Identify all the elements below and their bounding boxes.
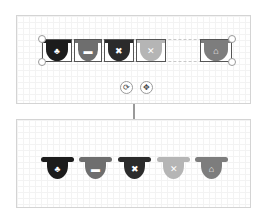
piggy-bank-icon: ♣ [47, 160, 68, 179]
tile-cross[interactable]: ✕ [136, 39, 166, 62]
badge-cross: ✕ [157, 157, 190, 179]
editor-frame: ♣ ▬ ✖ ✕ ⌂ ⟳ ✥ [16, 15, 251, 104]
tile-piggy-bank[interactable]: ♣ [42, 39, 72, 62]
tools-icon: ✖ [108, 42, 130, 61]
piggy-glyph: ♣ [54, 47, 60, 56]
resize-handle-top-left[interactable] [38, 35, 46, 43]
cross-icon: ✕ [140, 42, 162, 61]
house-glyph: ⌂ [209, 165, 214, 174]
tools-icon: ✖ [124, 160, 145, 179]
resize-handle-bottom-right[interactable] [228, 58, 236, 66]
tools-glyph: ✖ [131, 165, 139, 174]
arrow-shaft [133, 104, 135, 119]
rotate-icon: ⟳ [123, 84, 130, 92]
move-icon: ✥ [143, 84, 150, 92]
result-frame: ♣ ▬ ✖ ✕ ⌂ [16, 119, 251, 208]
resize-handle-top-right[interactable] [228, 35, 236, 43]
badge-house: ⌂ [195, 157, 228, 179]
rotate-button[interactable]: ⟳ [120, 81, 133, 94]
piggy-bank-icon: ♣ [46, 42, 68, 61]
cross-glyph: ✕ [170, 165, 178, 174]
selection-box[interactable]: ♣ ▬ ✖ ✕ ⌂ [42, 39, 232, 62]
house-glyph: ⌂ [213, 47, 218, 56]
badge-car: ▬ [79, 157, 112, 179]
tile-tools[interactable]: ✖ [104, 39, 134, 62]
tile-house[interactable]: ⌂ [200, 39, 232, 62]
resize-handle-bottom-left[interactable] [38, 58, 46, 66]
badge-piggy-bank: ♣ [41, 157, 74, 179]
car-icon: ▬ [85, 160, 106, 179]
cross-glyph: ✕ [147, 47, 155, 56]
cross-icon: ✕ [163, 160, 184, 179]
car-glyph: ▬ [84, 47, 93, 56]
move-button[interactable]: ✥ [140, 81, 153, 94]
tools-glyph: ✖ [115, 47, 123, 56]
car-icon: ▬ [78, 42, 98, 61]
piggy-glyph: ♣ [55, 165, 61, 174]
badge-tools: ✖ [118, 157, 151, 179]
tile-car[interactable]: ▬ [74, 39, 102, 62]
car-glyph: ▬ [91, 165, 100, 174]
house-icon: ⌂ [204, 42, 228, 61]
house-icon: ⌂ [201, 160, 222, 179]
